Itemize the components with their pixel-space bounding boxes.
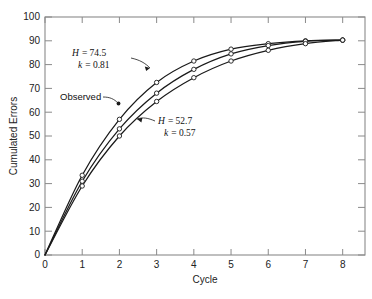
annotation-upper-eq2: = 0.81 [85,60,110,70]
y-tick-label-20: 20 [29,202,41,213]
marker-s1-x2 [117,127,121,131]
curve-series-1 [45,40,343,255]
annotation-lower-line1: H= 52.7 [157,116,192,126]
annotation-lower-eq2: = 0.57 [171,128,196,138]
marker-s1-x5 [229,52,233,56]
figure-container: 012345678 0102030405060708090100 Cycle C… [0,0,372,299]
marker-s2-x7 [303,41,307,45]
x-tick-label-3: 3 [154,259,160,270]
x-tick-label-8: 8 [340,259,346,270]
observed-label: Observed [60,91,101,102]
annotation-lower-eq1: = 52.7 [168,116,193,126]
marker-s0-x3 [154,80,158,84]
x-tick-label-4: 4 [191,259,197,270]
marker-s2-x6 [266,48,270,52]
y-tick-label-30: 30 [29,178,41,189]
annotation-upper-var2: k [78,60,83,70]
x-tick-label-2: 2 [117,259,123,270]
x-axis-title: Cycle [192,274,217,285]
marker-s2-x2 [117,134,121,138]
annotation-upper-var1: H [71,48,80,58]
marker-s1-x4 [192,67,196,71]
x-axis-tick-labels: 012345678 [42,259,346,270]
curve-series-0 [45,40,343,255]
observed-leader-line [103,97,118,103]
annotation-upper-leader-line [131,58,150,68]
y-tick-label-0: 0 [34,249,40,260]
y-tick-label-90: 90 [29,35,41,46]
x-tick-label-1: 1 [79,259,85,270]
annotation-lower-var1: H [157,116,166,126]
marker-s0-x5 [229,47,233,51]
x-tick-label-6: 6 [265,259,271,270]
marker-s2-x4 [192,75,196,79]
marker-s1-x6 [266,43,270,47]
y-tick-label-40: 40 [29,154,41,165]
observed-leader-dot [117,102,121,106]
annotation-upper: H= 74.5 k= 0.81 [71,48,150,71]
y-axis-title: Cumulated Errors [8,97,19,175]
curve-series-2 [45,40,343,255]
y-axis-tick-labels: 0102030405060708090100 [23,11,40,260]
marker-s0-x2 [117,117,121,121]
annotation-upper-eq1: = 74.5 [82,48,107,58]
y-tick-label-50: 50 [29,130,41,141]
annotation-upper-line1: H= 74.5 [71,48,106,58]
annotation-upper-line2: k= 0.81 [78,60,110,70]
annotation-lower-var2: k [164,128,169,138]
cumulated-errors-line-chart: 012345678 0102030405060708090100 Cycle C… [0,0,372,299]
marker-s1-x1 [80,179,84,183]
y-tick-label-100: 100 [23,11,40,22]
x-tick-label-7: 7 [303,259,309,270]
annotation-observed: Observed [60,91,120,105]
y-tick-label-80: 80 [29,59,41,70]
y-tick-label-60: 60 [29,107,41,118]
x-tick-label-0: 0 [42,259,48,270]
marker-s2-x5 [229,59,233,63]
marker-s0-x1 [80,173,84,177]
data-curves [45,40,343,255]
y-tick-label-70: 70 [29,83,41,94]
x-tick-label-5: 5 [228,259,234,270]
marker-s2-x1 [80,184,84,188]
marker-s2-x3 [154,99,158,103]
y-tick-label-10: 10 [29,226,41,237]
annotation-lower: H= 52.7 k= 0.57 [137,116,196,138]
marker-s2-x8 [340,38,344,42]
marker-s1-x3 [154,91,158,95]
marker-s0-x4 [192,59,196,63]
annotation-lower-line2: k= 0.57 [164,128,196,138]
